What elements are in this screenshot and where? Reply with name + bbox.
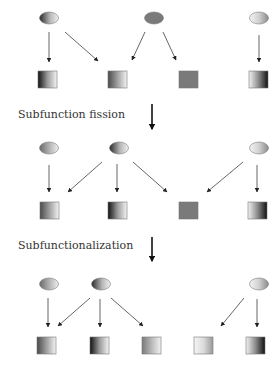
regulatory-element-ellipse [40, 142, 59, 154]
subfunctionalization-diagram [0, 0, 280, 365]
label-subfunctionalization: Subfunctionalization [18, 239, 133, 252]
subfunction-box [38, 71, 57, 88]
regulation-arrow [163, 32, 176, 60]
label-subfunction-fission: Subfunction fission [18, 108, 125, 121]
subfunction-box [246, 337, 265, 354]
subfunction-box [194, 337, 213, 354]
regulation-arrows [48, 32, 259, 327]
regulatory-element-ellipse [250, 142, 269, 154]
regulation-arrow [221, 298, 244, 326]
subfunction-box [90, 337, 109, 354]
regulation-arrow [65, 32, 98, 61]
regulatory-element-ellipse [92, 278, 111, 290]
regulatory-element-ellipse [40, 278, 59, 290]
regulatory-element-ellipse [145, 12, 164, 24]
regulation-arrow [132, 32, 145, 60]
regulatory-element-ellipse [110, 142, 129, 154]
subfunction-box [248, 202, 267, 219]
regulation-arrow [207, 162, 243, 192]
regulation-arrow [111, 298, 143, 326]
regulatory-element-ellipse [250, 12, 269, 24]
regulation-arrow [68, 162, 102, 192]
subfunction-box [40, 202, 59, 219]
subfunction-box [179, 202, 198, 219]
diagram-nodes [37, 12, 269, 354]
regulation-arrow [58, 298, 90, 326]
subfunction-box [108, 202, 127, 219]
regulatory-element-ellipse [40, 12, 59, 24]
subfunction-box [179, 71, 198, 88]
subfunction-box [108, 71, 127, 88]
regulatory-element-ellipse [250, 278, 269, 290]
subfunction-box [142, 337, 161, 354]
subfunction-box [249, 71, 268, 88]
subfunction-box [37, 337, 56, 354]
regulation-arrow [133, 162, 167, 192]
